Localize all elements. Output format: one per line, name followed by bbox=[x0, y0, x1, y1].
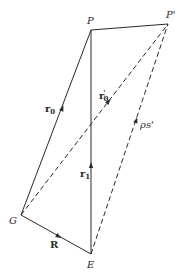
line-G-to-P bbox=[21, 30, 91, 215]
vector-diagram: P P' G E r0 r'0 ρs' r1 R bbox=[0, 0, 186, 279]
label-P: P bbox=[86, 15, 94, 26]
arrowhead-r1-icon bbox=[89, 162, 93, 168]
label-P-prime: P' bbox=[165, 9, 175, 20]
label-r1: r1 bbox=[80, 168, 90, 181]
arrowhead-rho-s-prime-icon bbox=[133, 117, 139, 124]
label-E: E bbox=[86, 259, 95, 270]
label-R: R bbox=[50, 239, 59, 250]
label-G: G bbox=[9, 215, 17, 226]
dashed-line-E-to-P-prime bbox=[91, 24, 168, 254]
label-r0-prime: r'0 bbox=[99, 88, 108, 103]
label-r0: r0 bbox=[45, 103, 55, 116]
label-rho-s-prime: ρs' bbox=[139, 119, 154, 130]
line-P-to-P-prime bbox=[91, 24, 168, 30]
